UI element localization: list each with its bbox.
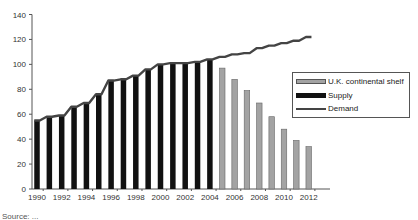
x-tick-label: 2008 [250,193,268,202]
bar [281,129,287,189]
bar [294,140,300,189]
x-tick-label: 2006 [226,193,244,202]
bar [232,79,238,189]
black-bar-swatch-icon [296,93,326,98]
source-note: Source: ... [2,212,38,220]
x-tick-label: 2010 [275,193,293,202]
bar [195,62,201,189]
y-tick-label: 140 [13,11,27,20]
y-tick-label: 80 [17,85,26,94]
bar [145,69,151,189]
legend-label: Supply [328,91,352,100]
bar [158,64,164,189]
bar [269,117,275,189]
bar [96,94,102,189]
legend-item-uk-shelf: U.K. continental shelf [296,75,406,89]
bar [59,115,64,189]
x-tick-label: 1996 [102,193,120,202]
y-tick-label: 60 [17,110,26,119]
grey-bar-swatch-icon [296,79,326,84]
bar [84,103,90,189]
bar [71,107,77,189]
bar [306,147,312,189]
legend-item-demand: Demand [296,102,406,116]
bar [244,91,250,189]
bar [220,68,226,189]
y-tick-label: 0 [22,185,27,194]
bar [133,76,139,189]
bar [47,117,53,189]
bar [108,81,114,189]
x-tick-label: 2002 [176,193,194,202]
x-tick-label: 1998 [127,193,145,202]
y-tick-label: 20 [17,160,26,169]
line-swatch-icon [296,108,326,110]
bar [34,120,40,189]
y-tick-label: 120 [13,35,27,44]
y-tick-label: 40 [17,135,26,144]
x-tick-label: 1990 [28,193,46,202]
legend-label: Demand [328,104,358,113]
legend-item-supply: Supply [296,89,406,103]
bar [170,63,176,189]
bar [121,79,127,189]
x-tick-label: 2004 [201,193,219,202]
x-tick-label: 2000 [152,193,170,202]
legend-label: U.K. continental shelf [328,77,404,86]
x-tick-label: 1994 [78,193,96,202]
bar [257,103,263,189]
legend: U.K. continental shelf Supply Demand [292,72,410,118]
x-tick-label: 1992 [53,193,71,202]
x-tick-label: 2012 [300,193,318,202]
y-tick-label: 100 [13,60,27,69]
bar [207,59,213,189]
bar [182,63,188,189]
bars [34,59,311,189]
